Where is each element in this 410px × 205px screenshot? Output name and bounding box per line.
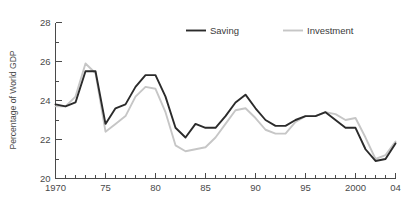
x-tick-label: 04 (390, 182, 401, 193)
series-line-investment (56, 63, 396, 159)
legend-label-saving: Saving (210, 25, 239, 36)
y-axis-tick-labels: 2022242628 (40, 17, 51, 184)
legend-label-investment: Investment (307, 25, 354, 36)
y-tick-label: 24 (40, 95, 51, 106)
x-tick-label: 1970 (45, 182, 66, 193)
series-line-saving (56, 71, 396, 161)
x-tick-label: 95 (300, 182, 311, 193)
axes (56, 23, 396, 179)
x-tick-label: 90 (250, 182, 261, 193)
chart-figure: 2022242628 19707580859095200004 SavingIn… (0, 0, 410, 205)
x-tick-label: 85 (200, 182, 211, 193)
chart-legend: SavingInvestment (186, 25, 354, 36)
y-tick-label: 26 (40, 56, 51, 67)
x-tick-label: 80 (150, 182, 161, 193)
y-tick-label: 22 (40, 134, 51, 145)
x-tick-label: 2000 (345, 182, 366, 193)
axis-ticks (56, 23, 396, 179)
saving-investment-line-chart: 2022242628 19707580859095200004 SavingIn… (0, 0, 410, 205)
x-tick-label: 75 (100, 182, 111, 193)
data-series (56, 63, 396, 161)
y-tick-label: 28 (40, 17, 51, 28)
x-axis-tick-labels: 19707580859095200004 (45, 182, 401, 193)
y-axis-title: Percentage of World GDP (8, 50, 18, 149)
